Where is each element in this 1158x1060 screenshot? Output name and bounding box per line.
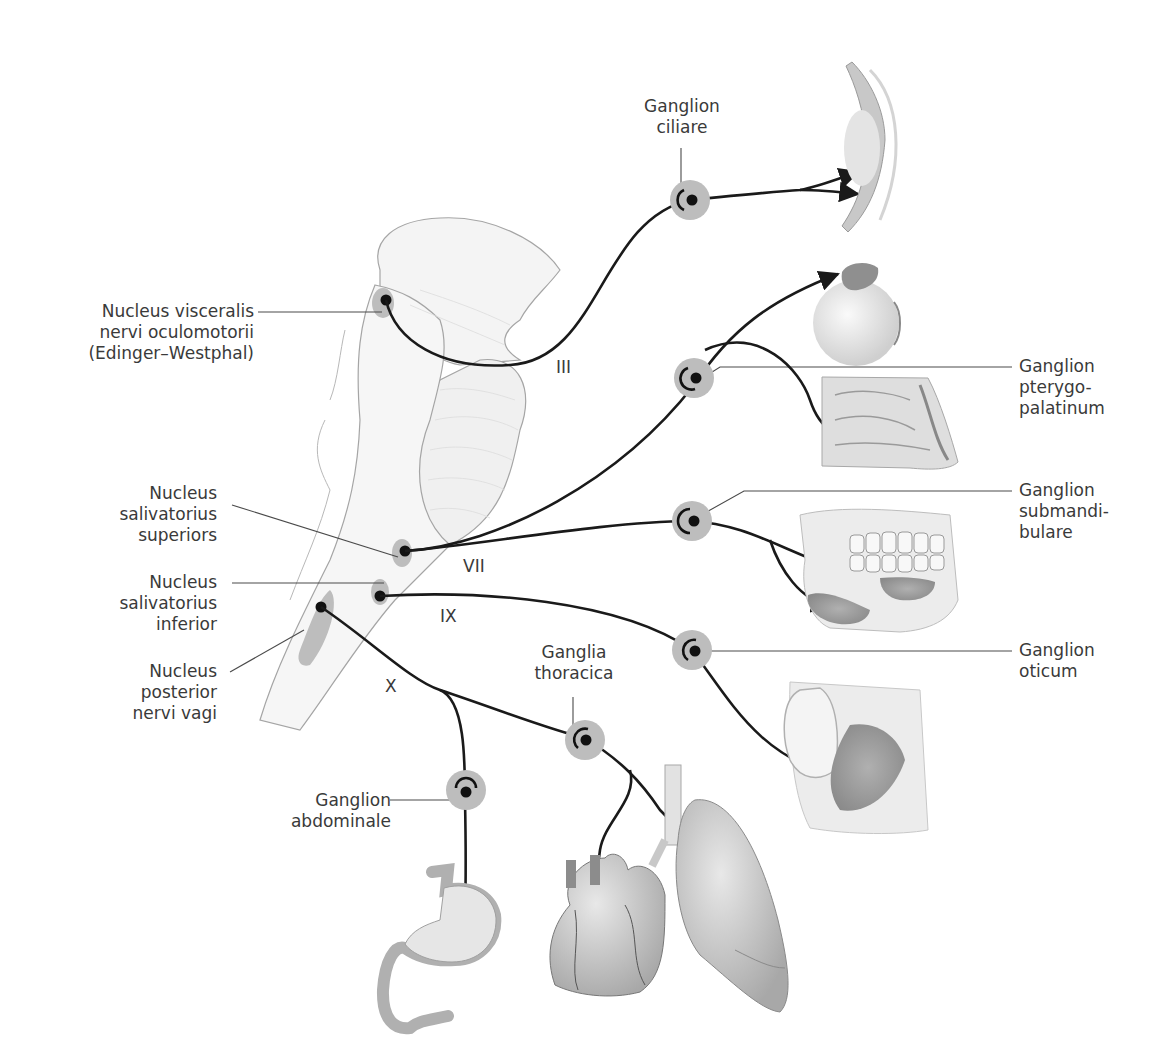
organ-nasal-cavity bbox=[822, 377, 958, 469]
label-ganglion-ciliare: Ganglion ciliare bbox=[640, 96, 724, 138]
label-ganglion-oticum: Ganglion oticum bbox=[1019, 640, 1095, 682]
organ-lung-trachea bbox=[652, 765, 788, 1012]
label-nerve-X: X bbox=[385, 676, 397, 696]
ganglion-oticum-marker bbox=[672, 630, 712, 670]
ganglion-pterygopalatinum-marker bbox=[674, 358, 714, 398]
ganglion-submandibulare-marker bbox=[672, 501, 712, 541]
label-nucleus-salivatorius-superior: Nucleus salivatorius superiors bbox=[119, 483, 217, 546]
label-ganglia-thoracica: Ganglia thoracica bbox=[530, 642, 618, 684]
organ-heart bbox=[550, 854, 665, 996]
label-nucleus-edinger-westphal: Nucleus visceralis nervi oculomotorii (E… bbox=[88, 301, 254, 364]
nucleus-salivatorius-superior-marker bbox=[392, 539, 412, 567]
ganglion-abdominale-marker bbox=[446, 770, 486, 810]
label-ganglion-submandibulare: Ganglion submandi- bulare bbox=[1019, 480, 1109, 543]
label-nerve-III: III bbox=[556, 357, 571, 377]
organ-mandible-salivary-glands bbox=[800, 509, 958, 632]
ganglion-ciliare-marker bbox=[670, 180, 710, 220]
organ-eye-lens bbox=[842, 62, 896, 232]
label-nucleus-salivatorius-inferior: Nucleus salivatorius inferior bbox=[119, 572, 217, 635]
organ-ear-parotid-gland bbox=[784, 682, 928, 834]
label-nerve-IX: IX bbox=[440, 606, 457, 626]
label-ganglion-pterygopalatinum: Ganglion pterygo- palatinum bbox=[1019, 356, 1105, 419]
label-ganglion-abdominale: Ganglion abdominale bbox=[291, 790, 391, 832]
organ-stomach bbox=[383, 870, 496, 1028]
label-nucleus-posterior-vagi: Nucleus posterior nervi vagi bbox=[133, 661, 217, 724]
label-nerve-VII: VII bbox=[463, 556, 485, 576]
ganglia-thoracica-marker bbox=[565, 720, 605, 760]
